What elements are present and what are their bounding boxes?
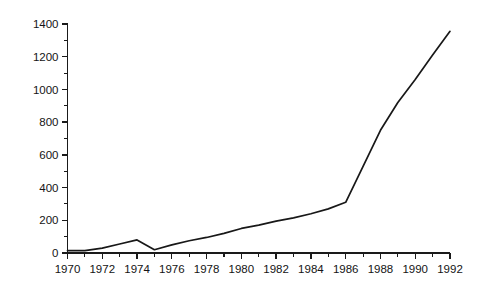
- x-axis-group: 1970197219741976197819801982198419861988…: [55, 253, 463, 275]
- x-tick-label: 1986: [333, 263, 359, 275]
- line-chart: 0200400600800100012001400 19701972197419…: [0, 0, 478, 288]
- x-tick-label: 1978: [194, 263, 220, 275]
- x-tick-label: 1988: [368, 263, 394, 275]
- x-tick-label: 1970: [55, 263, 81, 275]
- x-tick-label: 1990: [402, 263, 428, 275]
- data-series-line: [68, 31, 451, 250]
- y-tick-label: 600: [39, 149, 58, 161]
- y-tick-label: 1200: [33, 51, 59, 63]
- y-tick-label: 200: [39, 214, 58, 226]
- x-tick-label: 1974: [124, 263, 150, 275]
- x-tick-label: 1982: [263, 263, 289, 275]
- x-axis-tick-labels: 1970197219741976197819801982198419861988…: [55, 263, 463, 275]
- y-axis-tick-labels: 0200400600800100012001400: [33, 18, 59, 259]
- y-tick-label: 400: [39, 182, 58, 194]
- y-tick-label: 1400: [33, 18, 59, 30]
- y-tick-label: 800: [39, 116, 58, 128]
- x-tick-label: 1972: [89, 263, 115, 275]
- x-tick-label: 1976: [159, 263, 185, 275]
- y-axis-group: 0200400600800100012001400: [33, 18, 68, 259]
- y-tick-label: 1000: [33, 84, 59, 96]
- plot-area: [68, 31, 451, 250]
- chart-container: 0200400600800100012001400 19701972197419…: [0, 0, 478, 288]
- x-tick-label: 1992: [437, 263, 463, 275]
- x-tick-label: 1984: [298, 263, 324, 275]
- x-tick-label: 1980: [229, 263, 255, 275]
- y-tick-label: 0: [52, 247, 58, 259]
